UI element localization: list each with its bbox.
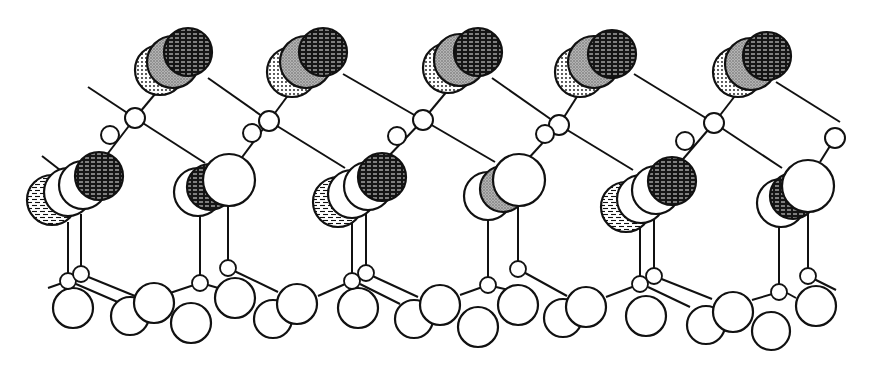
connector-atom: [101, 126, 119, 144]
top-atom-stack: [267, 28, 347, 97]
bond-line: [135, 118, 205, 163]
substrate-atom: [277, 284, 317, 324]
bonds-layer: [42, 74, 840, 307]
small-substrate-atom: [73, 266, 89, 282]
connector-atom: [676, 132, 694, 150]
connector-atom: [536, 125, 554, 143]
substrate-atom: [458, 307, 498, 347]
middle-clusters-layer: [27, 152, 834, 232]
bond-line: [42, 156, 60, 170]
substrate-atom: [171, 303, 211, 343]
substrate-atom: [338, 288, 378, 328]
cluster-atom-white: [203, 154, 255, 206]
connector-atom: [259, 111, 279, 131]
small-substrate-atom: [800, 268, 816, 284]
top-atom-stack: [713, 32, 791, 97]
small-substrate-atom: [771, 284, 787, 300]
substrate-atom: [752, 312, 790, 350]
stack-atom-hatch: [164, 28, 212, 76]
top-atom-stack: [135, 28, 212, 95]
bond-line: [423, 120, 495, 162]
small-substrate-atom: [480, 277, 496, 293]
top-atom-stack: [555, 30, 636, 97]
middle-atom-cluster: [174, 154, 255, 216]
cluster-atom-hatch: [75, 152, 123, 200]
stack-atom-hatch: [588, 30, 636, 78]
substrate-atom: [498, 285, 538, 325]
connector-atom: [388, 127, 406, 145]
connector-atom: [125, 108, 145, 128]
connector-atom: [825, 128, 845, 148]
bond-line: [269, 121, 345, 168]
substrate-atom: [626, 296, 666, 336]
substrate-atom: [420, 285, 460, 325]
small-substrate-atom: [646, 268, 662, 284]
bond-line: [343, 74, 423, 120]
bond-line: [776, 82, 840, 122]
bond-line: [208, 78, 269, 121]
bond-line: [492, 78, 559, 125]
small-substrate-atom: [358, 265, 374, 281]
middle-atom-cluster: [464, 154, 545, 220]
cluster-atom-hatch: [648, 157, 696, 205]
bond-line: [714, 123, 782, 168]
top-stacks-layer: [135, 28, 791, 97]
ball-and-stick-model: [0, 0, 869, 368]
bond-line: [787, 293, 796, 298]
connector-atom: [243, 124, 261, 142]
stack-atom-hatch: [299, 28, 347, 76]
crystal-structure-diagram: [0, 0, 869, 368]
substrate-atom: [134, 283, 174, 323]
connector-atom: [704, 113, 724, 133]
substrate-atom: [713, 292, 753, 332]
middle-atom-cluster: [757, 160, 834, 227]
middle-atom-cluster: [313, 153, 406, 227]
substrate-atom: [796, 286, 836, 326]
cluster-atom-white: [493, 154, 545, 206]
bond-line: [634, 74, 714, 123]
small-substrate-atom: [510, 261, 526, 277]
bond-line: [559, 125, 633, 170]
middle-atom-cluster: [601, 157, 696, 232]
connector-atom: [413, 110, 433, 130]
stack-atom-hatch: [454, 28, 502, 76]
top-atom-stack: [423, 28, 502, 93]
cluster-atom-white: [782, 160, 834, 212]
connector-atoms-layer: [101, 108, 845, 150]
small-substrate-atom: [192, 275, 208, 291]
substrate-layer: [53, 278, 836, 350]
small-substrate-atom: [220, 260, 236, 276]
middle-atom-cluster: [27, 152, 123, 225]
bond-line: [654, 276, 712, 299]
substrate-atom: [53, 288, 93, 328]
substrate-atom: [566, 287, 606, 327]
stack-atom-hatch: [743, 32, 791, 80]
substrate-atom: [215, 278, 255, 318]
cluster-atom-hatch: [358, 153, 406, 201]
